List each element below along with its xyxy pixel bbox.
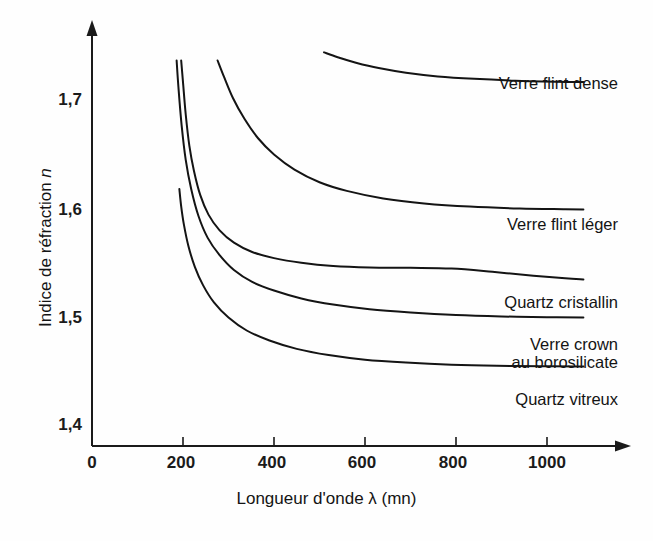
xtick-label-800: 800 xyxy=(439,453,467,473)
refractive-index-dispersion-chart: 1,7 1,6 1,5 1,4 0 200 400 600 800 1000 L… xyxy=(0,0,653,541)
y-axis-title: Indice de réfraction n xyxy=(36,168,56,327)
ytick-label-1-4: 1,4 xyxy=(44,415,82,435)
xtick-label-400: 400 xyxy=(258,453,286,473)
x-axis-ticks xyxy=(183,437,547,446)
series-label-quartz-vitreux: Quartz vitreux xyxy=(515,390,618,408)
series-label-verre-flint-leger: Verre flint léger xyxy=(507,215,618,233)
curve-quartz-cristallin xyxy=(181,61,583,280)
series-label-verre-flint-dense: Verre flint dense xyxy=(499,74,618,92)
series-label-quartz-cristallin: Quartz cristallin xyxy=(504,293,618,311)
xtick-label-600: 600 xyxy=(348,453,376,473)
ytick-label-1-7: 1,7 xyxy=(44,90,82,110)
series-label-verre-crown-au-borosilicate: Verre crown au borosilicate xyxy=(512,335,618,372)
xtick-label-1000: 1000 xyxy=(528,453,566,473)
y-axis-title-symbol: n xyxy=(36,168,55,177)
xtick-label-200: 200 xyxy=(167,453,195,473)
curve-verre-crown-au-borosilicate xyxy=(177,61,584,318)
series-label-verre-crown-line2: au borosilicate xyxy=(512,353,618,371)
x-axis-title: Longueur d'onde λ (mn) xyxy=(0,489,653,509)
y-axis-title-text: Indice de réfraction xyxy=(36,178,55,327)
series-curves xyxy=(177,52,584,366)
xtick-label-0: 0 xyxy=(87,453,96,473)
series-label-verre-crown-line1: Verre crown xyxy=(512,335,618,353)
